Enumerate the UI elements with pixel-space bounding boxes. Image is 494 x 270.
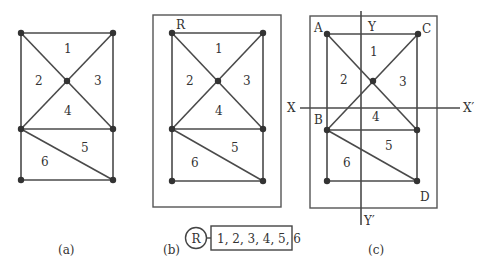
region-5-label: 5 [231, 141, 239, 155]
tree-leaf-content: 1, 2, 3, 4, 5, 6 [217, 232, 301, 246]
panel-c: A C B D Y Y′ X X′ 1 2 3 4 5 6 (c) [287, 11, 475, 257]
region-6-label: 6 [343, 156, 351, 170]
region-1-label: 1 [370, 45, 378, 59]
panel-c-caption: (c) [368, 243, 384, 257]
vertex-b-label: B [314, 113, 323, 127]
region-3-label: 3 [243, 74, 251, 88]
vertex-a-label: A [313, 21, 323, 35]
vertex-d-label: D [420, 190, 430, 204]
panel-b: R 1 2 3 4 5 6 R 1, 2, 3, 4, 5, 6 (b) [153, 15, 301, 257]
region-3-label: 3 [399, 75, 407, 89]
tree-structure: R 1, 2, 3, 4, 5, 6 [186, 226, 301, 250]
tree-root-label: R [192, 232, 202, 246]
region-6-label: 6 [191, 156, 199, 170]
panel-a: 1 2 3 4 5 6 (a) [18, 30, 116, 257]
region-2-label: 2 [340, 73, 348, 87]
region-5-label: 5 [385, 139, 393, 153]
region-4-label: 4 [215, 104, 223, 118]
split-axes [300, 11, 460, 225]
region-3-label: 3 [94, 74, 102, 88]
panel-b-caption: (b) [163, 243, 180, 257]
region-4-label: 4 [64, 104, 72, 118]
region-4-label: 4 [372, 110, 380, 124]
region-1-label: 1 [64, 42, 72, 56]
region-1-label: 1 [215, 42, 223, 56]
region-5-label: 5 [81, 141, 89, 155]
axis-y-top-label: Y [367, 20, 377, 34]
axis-x-left-label: X [287, 101, 296, 115]
region-2-label: 2 [186, 74, 194, 88]
axis-y-bottom-label: Y′ [363, 214, 375, 228]
figure-canvas: 1 2 3 4 5 6 (a) R 1 2 [0, 0, 494, 270]
region-2-label: 2 [35, 74, 43, 88]
axis-x-right-label: X′ [463, 101, 475, 115]
vertex-c-label: C [422, 22, 431, 36]
region-6-label: 6 [41, 155, 49, 169]
vertex-r-label: R [176, 18, 186, 32]
panel-a-caption: (a) [58, 243, 75, 257]
